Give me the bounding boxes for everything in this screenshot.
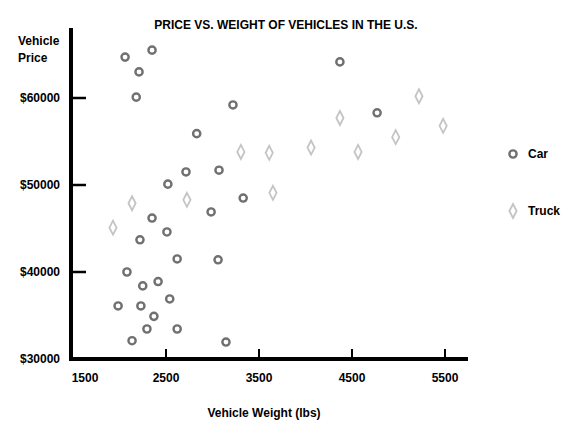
car-point [208, 208, 215, 215]
car-point [137, 302, 144, 309]
truck-point [354, 145, 361, 159]
x-axis-ticks: 15002500350045005500 [72, 349, 459, 385]
chart-title: PRICE VS. WEIGHT OF VEHICLES IN THE U.S. [154, 18, 417, 32]
truck-point [266, 146, 273, 160]
car-point [143, 325, 150, 332]
x-tick-label: 3500 [246, 371, 273, 385]
car-point [163, 228, 170, 235]
truck-point [440, 119, 447, 133]
truck-point [336, 111, 343, 125]
legend-truck-label: Truck [528, 204, 560, 218]
x-tick-label: 1500 [72, 371, 99, 385]
car-point [193, 130, 200, 137]
car-point [135, 68, 142, 75]
car-point [139, 282, 146, 289]
car-point [174, 255, 181, 262]
car-point [136, 236, 143, 243]
car-point [150, 313, 157, 320]
car-point [164, 181, 171, 188]
car-point [182, 168, 189, 175]
car-point [121, 54, 128, 61]
car-point [222, 338, 229, 345]
x-tick-label: 5500 [432, 371, 459, 385]
car-point [148, 47, 155, 54]
car-point [174, 325, 181, 332]
legend-truck-diamond-icon [509, 204, 516, 218]
car-point [214, 256, 221, 263]
y-tick-label: $50000 [20, 178, 60, 192]
truck-point [392, 130, 399, 144]
car-point [374, 109, 381, 116]
scatter-chart: PRICE VS. WEIGHT OF VEHICLES IN THE U.S.… [0, 0, 572, 439]
car-point [336, 58, 343, 65]
car-point [166, 295, 173, 302]
x-tick-label: 4500 [339, 371, 366, 385]
truck-point [307, 141, 314, 155]
y-tick-label: $40000 [20, 265, 60, 279]
car-point [148, 214, 155, 221]
y-axis-label-line1: Vehicle [18, 34, 60, 48]
y-tick-label: $60000 [20, 91, 60, 105]
legend-car-label: Car [528, 147, 548, 161]
y-axis-label-line2: Price [18, 51, 48, 65]
legend-truck-marker [509, 204, 516, 218]
car-point [215, 167, 222, 174]
car-point [240, 194, 247, 201]
car-point [229, 101, 236, 108]
x-tick-label: 2500 [153, 371, 180, 385]
truck-point [237, 145, 244, 159]
car-point [133, 94, 140, 101]
legend-car-circle-icon [509, 150, 516, 157]
truck-point [109, 221, 116, 235]
y-tick-label: $30000 [20, 352, 60, 366]
car-point [115, 302, 122, 309]
car-point [123, 268, 130, 275]
legend: Car Truck [509, 147, 560, 218]
legend-car-marker [509, 150, 516, 157]
car-point [154, 278, 161, 285]
truck-point [183, 193, 190, 207]
truck-point [415, 89, 422, 103]
car-point [128, 337, 135, 344]
x-axis-label: Vehicle Weight (lbs) [207, 406, 320, 420]
data-points [109, 47, 446, 346]
truck-point [269, 186, 276, 200]
truck-point [128, 196, 135, 210]
y-axis-ticks: $30000$40000$50000$60000 [20, 91, 86, 366]
